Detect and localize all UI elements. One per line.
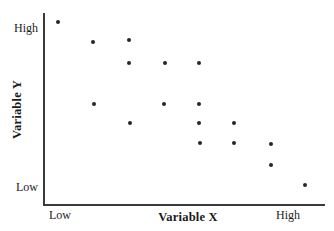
data-point <box>232 141 236 145</box>
data-point <box>56 20 60 24</box>
x-axis-tick-label-high: High <box>276 209 322 222</box>
y-axis-title: Variable Y <box>10 65 25 155</box>
x-axis-title: Variable X <box>133 210 243 225</box>
y-axis-tick-label-high: High <box>8 22 38 35</box>
y-axis-line <box>43 13 45 206</box>
data-point <box>92 102 96 106</box>
data-point <box>269 163 273 167</box>
x-axis-tick-label-low: Low <box>49 209 89 222</box>
data-point <box>197 102 201 106</box>
data-point <box>128 121 132 125</box>
data-point <box>197 121 201 125</box>
data-point <box>197 61 201 65</box>
data-point <box>91 40 95 44</box>
data-point <box>163 61 167 65</box>
data-point <box>232 121 236 125</box>
data-point <box>127 38 131 42</box>
x-axis-line <box>43 204 325 206</box>
data-point <box>127 61 131 65</box>
plot-area: High Low Low High Variable X Variable Y <box>0 0 334 231</box>
data-point <box>269 142 273 146</box>
scatter-plot-figure: High Low Low High Variable X Variable Y <box>0 0 334 231</box>
y-axis-tick-label-low: Low <box>8 181 38 194</box>
data-point <box>162 102 166 106</box>
data-point <box>303 183 307 187</box>
data-point <box>198 141 202 145</box>
